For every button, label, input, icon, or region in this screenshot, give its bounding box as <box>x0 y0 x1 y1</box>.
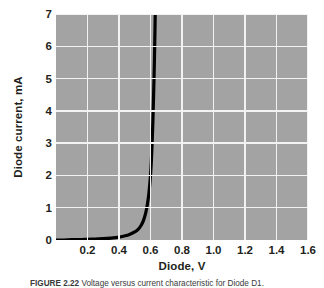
x-axis-title: Diode, V <box>56 259 308 273</box>
y-tick-label-2: 2 <box>30 168 52 182</box>
gridline-horizontal-6 <box>56 46 308 48</box>
y-tick-label-3: 3 <box>30 136 52 150</box>
figure-caption-label: FIGURE 2.22 <box>30 279 79 288</box>
gridline-horizontal-2 <box>56 175 308 177</box>
gridline-horizontal-5 <box>56 78 308 80</box>
figure-caption: FIGURE 2.22 Voltage versus current chara… <box>30 279 314 288</box>
y-axis-tick-labels: 76543210 <box>30 14 52 240</box>
y-axis-title: Diode current, mA <box>9 14 27 240</box>
y-tick-label-6: 6 <box>30 39 52 53</box>
y-tick-label-7: 7 <box>30 7 52 21</box>
gridline-horizontal-3 <box>56 142 308 144</box>
y-tick-label-0: 0 <box>30 233 52 247</box>
y-tick-label-5: 5 <box>30 72 52 86</box>
gridline-horizontal-1 <box>56 207 308 209</box>
figure-container: Diode current, mA 76543210 0.20.40.60.81… <box>0 0 324 288</box>
x-tick-label-1.6: 1.6 <box>288 243 324 257</box>
gridline-horizontal-7 <box>56 14 308 15</box>
plot-area <box>56 14 308 240</box>
y-tick-label-1: 1 <box>30 201 52 215</box>
y-tick-label-4: 4 <box>30 104 52 118</box>
x-axis-tick-labels: 0.20.40.60.81.01.21.41.6 <box>56 243 308 257</box>
figure-caption-text: Voltage versus current characteristic fo… <box>81 279 263 288</box>
gridline-horizontal-4 <box>56 110 308 112</box>
